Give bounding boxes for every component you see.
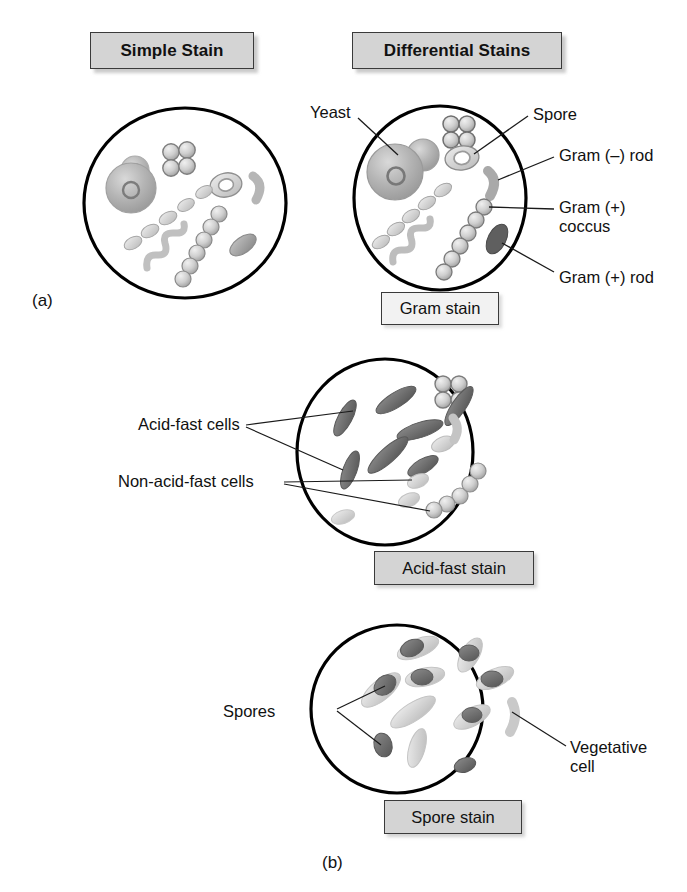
label-spores: Spores (223, 702, 275, 721)
label-gram-negative-rod: Gram (–) rod (559, 146, 653, 165)
label-spore: Spore (533, 105, 577, 124)
header-differential-stains: Differential Stains (352, 32, 562, 69)
label-non-acid-fast-cells: Non-acid-fast cells (118, 472, 254, 491)
label-vegetative-cell: Vegetative cell (570, 738, 647, 776)
spore-stain-field (311, 625, 566, 793)
label-gram-positive-coccus: Gram (+) coccus (559, 198, 625, 236)
caption-acid-fast-stain: Acid-fast stain (374, 551, 534, 585)
panel-letter-b: (b) (322, 853, 343, 873)
label-gram-positive-rod: Gram (+) rod (559, 268, 654, 287)
panel-letter-a: (a) (32, 291, 53, 311)
caption-gram-stain: Gram stain (381, 292, 499, 325)
label-yeast: Yeast (310, 103, 351, 122)
label-acid-fast-cells: Acid-fast cells (138, 415, 240, 434)
figure-root: Simple Stain Differential Stains Gram st… (0, 0, 687, 892)
caption-spore-stain: Spore stain (384, 800, 522, 834)
simple-stain-field (84, 108, 286, 298)
acid-fast-stain-field (246, 359, 486, 545)
gram-stain-field (354, 106, 554, 290)
header-simple-stain: Simple Stain (90, 32, 254, 69)
